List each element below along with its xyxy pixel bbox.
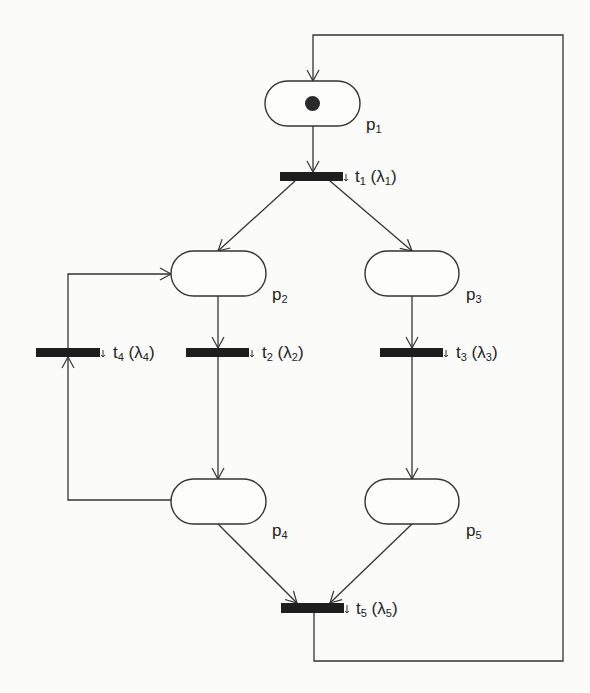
timed-transition-marker-icon xyxy=(345,605,349,613)
transitions-layer xyxy=(36,172,448,613)
transition-t5 xyxy=(281,603,344,613)
timed-transition-marker-icon xyxy=(101,350,105,357)
place-label-p4: p4 xyxy=(272,522,288,541)
arc-p4-to-t4 xyxy=(68,357,171,500)
transition-t3 xyxy=(380,348,443,357)
token-icon xyxy=(305,96,320,111)
place-label-p3: p3 xyxy=(466,286,482,305)
place-p4 xyxy=(171,479,266,524)
place-label-p1: p1 xyxy=(366,116,382,135)
timed-transition-marker-icon xyxy=(344,174,348,181)
arc-t1-to-p3 xyxy=(330,181,412,251)
place-label-p5: p5 xyxy=(466,522,482,541)
transition-label-t4: t4 (λ4) xyxy=(113,344,155,363)
arc-p5-to-t5 xyxy=(330,524,412,603)
timed-transition-marker-icon xyxy=(250,350,254,357)
transition-label-t2: t2 (λ2) xyxy=(262,344,304,363)
transition-label-t3: t3 (λ3) xyxy=(456,344,498,363)
transition-t4 xyxy=(36,348,100,357)
places-layer xyxy=(171,81,459,524)
place-label-p2: p2 xyxy=(272,286,288,305)
place-p2 xyxy=(171,251,266,296)
transition-t1 xyxy=(280,172,343,181)
transition-t2 xyxy=(186,348,249,357)
timed-transition-marker-icon xyxy=(444,350,448,357)
place-p3 xyxy=(365,251,459,296)
transition-label-t1: t1 (λ1) xyxy=(355,168,397,187)
transition-label-t5: t5 (λ5) xyxy=(356,600,398,619)
arc-t1-to-p2 xyxy=(218,181,295,251)
arc-t4-to-p2 xyxy=(68,274,171,348)
place-p5 xyxy=(365,479,459,524)
